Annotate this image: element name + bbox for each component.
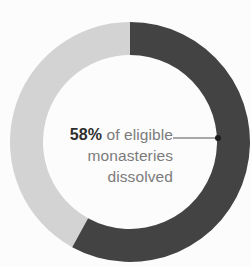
callout-line-1: 58% of eligible <box>46 124 173 145</box>
callout-line-3: dissolved <box>46 166 173 187</box>
callout-percent: 58% <box>70 126 102 143</box>
donut-chart: 58% of eligible monasteries dissolved <box>0 0 251 267</box>
callout-line-2: monasteries <box>46 145 173 166</box>
callout-line-1-rest: of eligible <box>102 126 173 143</box>
callout-anchor-dot <box>215 135 221 141</box>
center-callout-text: 58% of eligible monasteries dissolved <box>46 124 173 187</box>
